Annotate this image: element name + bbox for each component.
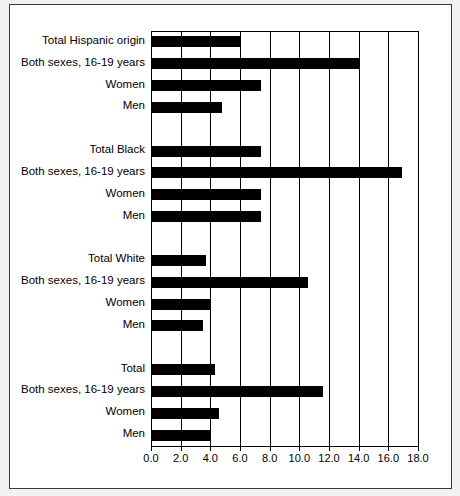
category-label: Men (11, 209, 151, 221)
x-tick-2.0 (181, 446, 182, 451)
bar (151, 430, 210, 441)
bar (151, 364, 215, 375)
gridline-12.0 (329, 31, 330, 446)
x-tick-14.0 (359, 446, 360, 451)
x-tick-18.0 (418, 446, 419, 451)
x-tick-6.0 (240, 446, 241, 451)
category-label: Both sexes, 16-19 years (11, 56, 151, 68)
category-label: Men (11, 427, 151, 439)
bar (151, 408, 219, 419)
bar (151, 80, 261, 91)
gridline-18.0 (418, 31, 419, 446)
bar (151, 167, 402, 178)
category-label: Women (11, 296, 151, 308)
bar (151, 386, 323, 397)
gridline-14.0 (359, 31, 360, 446)
category-label: Both sexes, 16-19 years (11, 383, 151, 395)
bar (151, 299, 210, 310)
gridline-2.0 (181, 31, 182, 446)
bar-chart: Total Hispanic originBoth sexes, 16-19 y… (0, 0, 460, 496)
x-tick-label-18.0: 18.0 (398, 452, 438, 464)
bar (151, 36, 240, 47)
gridline-16.0 (388, 31, 389, 446)
bar (151, 277, 308, 288)
x-tick-16.0 (388, 446, 389, 451)
gridline-0.0 (151, 31, 152, 446)
category-label: Women (11, 405, 151, 417)
bar (151, 255, 206, 266)
x-axis-line (151, 446, 419, 447)
x-tick-12.0 (329, 446, 330, 451)
plot-area (151, 31, 418, 446)
category-label: Both sexes, 16-19 years (11, 274, 151, 286)
x-tick-10.0 (299, 446, 300, 451)
category-label-column: Total Hispanic originBoth sexes, 16-19 y… (0, 31, 151, 446)
bar (151, 320, 203, 331)
chart-page: Total Hispanic originBoth sexes, 16-19 y… (0, 0, 460, 496)
category-label: Total Hispanic origin (11, 34, 151, 46)
category-label: Men (11, 99, 151, 111)
category-label: Women (11, 187, 151, 199)
gridline-6.0 (240, 31, 241, 446)
category-label: Total (11, 362, 151, 374)
category-label: Total Black (11, 143, 151, 155)
bar (151, 211, 261, 222)
bar (151, 189, 261, 200)
gridline-8.0 (270, 31, 271, 446)
bar (151, 58, 359, 69)
category-label: Total White (11, 252, 151, 264)
x-tick-8.0 (270, 446, 271, 451)
plot-top-border (151, 31, 419, 32)
category-label: Men (11, 318, 151, 330)
category-label: Both sexes, 16-19 years (11, 165, 151, 177)
x-tick-4.0 (210, 446, 211, 451)
x-tick-0.0 (151, 446, 152, 451)
gridline-4.0 (210, 31, 211, 446)
gridline-10.0 (299, 31, 300, 446)
bar (151, 146, 261, 157)
category-label: Women (11, 78, 151, 90)
bar (151, 102, 222, 113)
